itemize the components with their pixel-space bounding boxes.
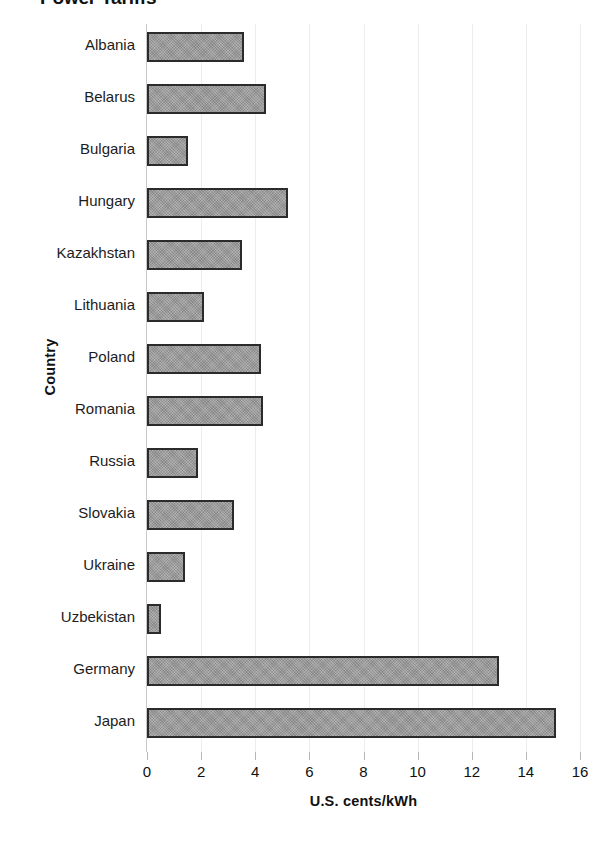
bar-row: Poland bbox=[147, 336, 580, 388]
bar-row: Slovakia bbox=[147, 492, 580, 544]
bar-row: Belarus bbox=[147, 76, 580, 128]
bar bbox=[147, 500, 234, 530]
bar-row: Bulgaria bbox=[147, 128, 580, 180]
bar bbox=[147, 136, 188, 166]
category-label: Kazakhstan bbox=[57, 244, 135, 262]
category-label: Albania bbox=[85, 36, 135, 54]
category-label: Ukraine bbox=[83, 556, 135, 574]
x-axis-tick-label: 12 bbox=[452, 763, 492, 780]
x-axis-tick-label: 4 bbox=[235, 763, 275, 780]
category-label: Japan bbox=[94, 712, 135, 730]
bar bbox=[147, 240, 242, 270]
x-axis-tick bbox=[580, 752, 581, 760]
bar-row: Uzbekistan bbox=[147, 596, 580, 648]
x-axis-tick-label: 2 bbox=[181, 763, 221, 780]
x-axis-tick bbox=[418, 752, 419, 760]
x-axis-tick-label: 10 bbox=[398, 763, 438, 780]
category-label: Poland bbox=[88, 348, 135, 366]
plot-area: AlbaniaBelarusBulgariaHungaryKazakhstanL… bbox=[147, 24, 580, 752]
x-axis-tick bbox=[364, 752, 365, 760]
category-label: Lithuania bbox=[74, 296, 135, 314]
x-axis-tick bbox=[201, 752, 202, 760]
bar bbox=[147, 32, 244, 62]
bar-row: Romania bbox=[147, 388, 580, 440]
x-axis-tick-label: 6 bbox=[289, 763, 329, 780]
bar-row: Ukraine bbox=[147, 544, 580, 596]
category-label: Romania bbox=[75, 400, 135, 418]
page-title: Power Tariffs bbox=[40, 0, 156, 9]
category-label: Belarus bbox=[84, 88, 135, 106]
x-axis: 0246810121416 bbox=[147, 752, 580, 753]
x-axis-tick bbox=[309, 752, 310, 760]
x-axis-tick-label: 14 bbox=[506, 763, 546, 780]
bar-row: Hungary bbox=[147, 180, 580, 232]
bar bbox=[147, 344, 261, 374]
category-label: Germany bbox=[73, 660, 135, 678]
bar bbox=[147, 84, 266, 114]
category-label: Slovakia bbox=[78, 504, 135, 522]
bar-row: Kazakhstan bbox=[147, 232, 580, 284]
x-axis-tick bbox=[147, 752, 148, 760]
bar bbox=[147, 292, 204, 322]
bar bbox=[147, 448, 198, 478]
x-axis-tick-label: 16 bbox=[560, 763, 600, 780]
x-axis-tick bbox=[255, 752, 256, 760]
x-axis-tick bbox=[472, 752, 473, 760]
x-axis-tick bbox=[526, 752, 527, 760]
bar bbox=[147, 552, 185, 582]
y-axis-title: Country bbox=[42, 307, 58, 427]
chart-page: Power Tariffs Country AlbaniaBelarusBulg… bbox=[0, 0, 601, 846]
bar bbox=[147, 604, 161, 634]
category-label: Hungary bbox=[78, 192, 135, 210]
gridline bbox=[580, 24, 581, 752]
category-label: Bulgaria bbox=[80, 140, 135, 158]
bar-row: Japan bbox=[147, 700, 580, 752]
bar-row: Germany bbox=[147, 648, 580, 700]
bar bbox=[147, 656, 499, 686]
x-axis-tick-label: 8 bbox=[344, 763, 384, 780]
category-label: Uzbekistan bbox=[61, 608, 135, 626]
category-label: Russia bbox=[89, 452, 135, 470]
bar-row: Albania bbox=[147, 24, 580, 76]
bar bbox=[147, 188, 288, 218]
x-axis-title: U.S. cents/kWh bbox=[147, 793, 580, 809]
x-axis-tick-label: 0 bbox=[127, 763, 167, 780]
bar-row: Russia bbox=[147, 440, 580, 492]
bar bbox=[147, 396, 263, 426]
bar-row: Lithuania bbox=[147, 284, 580, 336]
bar bbox=[147, 708, 556, 738]
